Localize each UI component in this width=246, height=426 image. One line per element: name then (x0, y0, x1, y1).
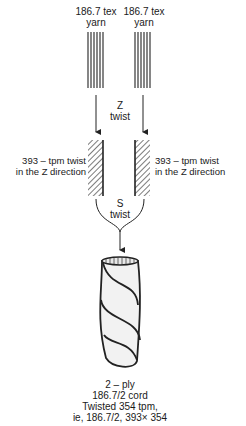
untwisted-yarn-left (88, 32, 103, 88)
cord-designation: ie, 186.7/2, 393× 354 (50, 412, 190, 423)
twisted-right-tpm: 393 – tpm twist (155, 155, 245, 166)
twisted-right-label: 393 – tpm twist in the Z direction (155, 155, 245, 177)
twisted-left-direction: in the Z direction (2, 166, 86, 177)
twisted-yarn-right (135, 140, 150, 196)
s-twist-word: twist (100, 209, 140, 220)
yarn-right-type: yarn (120, 17, 168, 28)
twisted-right-direction: in the Z direction (155, 166, 245, 177)
twisted-yarn-left (88, 140, 103, 196)
cord-count: 186.7/2 cord (50, 390, 190, 401)
yarn-left-type: yarn (72, 17, 120, 28)
cord-twist: Twisted 354 tpm, (50, 401, 190, 412)
s-twist-letter: S (100, 198, 140, 209)
z-twist-letter: Z (100, 100, 140, 111)
yarn-right-tex: 186.7 tex (120, 6, 168, 17)
twisted-left-label: 393 – tpm twist in the Z direction (2, 155, 86, 177)
plied-cord (100, 257, 140, 367)
twisted-left-tpm: 393 – tpm twist (2, 155, 86, 166)
yarn-left-tex: 186.7 tex (72, 6, 120, 17)
cord-ply: 2 – ply (50, 379, 190, 390)
z-twist-word: twist (100, 111, 140, 122)
s-twist-label: S twist (100, 198, 140, 220)
yarn-right-label: 186.7 tex yarn (120, 6, 168, 28)
cord-label: 2 – ply 186.7/2 cord Twisted 354 tpm, ie… (50, 379, 190, 423)
z-twist-label: Z twist (100, 100, 140, 122)
yarn-left-label: 186.7 tex yarn (72, 6, 120, 28)
untwisted-yarn-right (135, 32, 150, 88)
